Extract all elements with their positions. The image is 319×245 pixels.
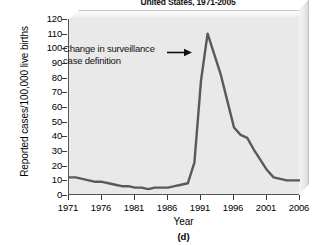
y-tick-mark	[62, 107, 67, 108]
x-tick-mark	[101, 195, 102, 200]
y-tick-mark	[62, 166, 67, 167]
y-tick-label: 110	[40, 29, 62, 39]
x-tick-label-group: 19711976198119861991199620012006	[0, 202, 319, 214]
panel-label: (d)	[68, 231, 299, 242]
y-tick-label: 10	[40, 175, 62, 185]
x-tick-label: 2006	[279, 202, 319, 213]
x-tick-mark	[68, 195, 69, 200]
y-tick-label: 100	[40, 43, 62, 53]
y-tick-label: 120	[40, 14, 62, 24]
y-tick-label: 40	[40, 131, 62, 141]
y-tick-mark	[62, 180, 67, 181]
x-tick-mark	[167, 195, 168, 200]
y-tick-label: 80	[40, 73, 62, 83]
x-tick-mark-group	[0, 195, 319, 201]
y-tick-label: 70	[40, 87, 62, 97]
x-tick-mark	[266, 195, 267, 200]
x-tick-mark	[233, 195, 234, 200]
y-tick-mark	[62, 122, 67, 123]
chart-figure: United States, 1971-2005 Reported cases/…	[0, 0, 319, 245]
x-tick-mark	[299, 195, 300, 200]
x-tick-mark	[200, 195, 201, 200]
x-tick-mark	[134, 195, 135, 200]
right-arrow-icon	[167, 48, 193, 57]
y-tick-mark	[62, 34, 67, 35]
y-tick-label: 60	[40, 102, 62, 112]
y-tick-mark	[62, 136, 67, 137]
chart-title: United States, 1971-2005	[68, 0, 308, 6]
y-tick-mark	[62, 78, 67, 79]
y-tick-label: 30	[40, 146, 62, 156]
y-tick-label: 50	[40, 117, 62, 127]
y-tick-mark	[62, 151, 67, 152]
x-axis-title: Year	[68, 216, 299, 227]
y-axis-title: Reported cases/100,000 live births	[19, 7, 30, 197]
annotation-line-2: case definition	[63, 55, 121, 66]
y-tick-label: 90	[40, 58, 62, 68]
plot-3d-right-face	[299, 0, 309, 195]
annotation-line-1: Change in surveillance	[63, 43, 155, 54]
y-tick-label: 20	[40, 161, 62, 171]
y-tick-mark	[62, 92, 67, 93]
